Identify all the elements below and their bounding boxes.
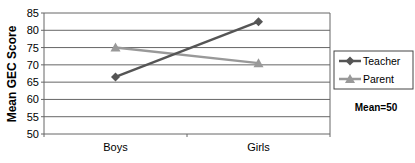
y-axis-label: Mean GEC Score [5,25,19,122]
gridlines [44,13,330,134]
legend-label: Teacher [363,55,401,67]
chart: 5055606570758085 BoysGirls Mean GEC Scor… [0,0,415,163]
y-tick-label: 85 [27,7,39,19]
diamond-marker [254,17,263,26]
series-parent [111,43,264,68]
legend: TeacherParent [334,51,413,89]
y-tick-label: 75 [27,42,39,54]
x-tick-label: Girls [247,141,270,153]
diamond-marker [111,72,120,81]
y-tick-label: 70 [27,59,39,71]
mean-annotation: Mean=50 [355,102,398,113]
x-axis: BoysGirls [44,134,330,153]
legend-label: Parent [363,73,394,85]
y-tick-label: 80 [27,24,39,36]
y-tick-label: 60 [27,93,39,105]
y-tick-label: 65 [27,76,39,88]
series-group [111,17,264,81]
y-tick-label: 50 [27,128,39,140]
x-tick-label: Boys [103,141,128,153]
y-axis: 5055606570758085 [27,7,44,140]
y-tick-label: 55 [27,111,39,123]
